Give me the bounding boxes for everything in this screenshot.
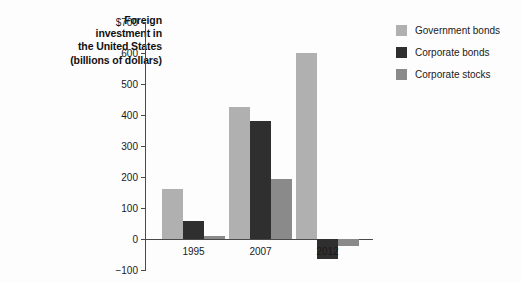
- chart-title-line-1: Foreign: [10, 14, 162, 27]
- bar-government-2012: [296, 53, 317, 239]
- x-axis-label-2012: 2012: [316, 246, 338, 257]
- bar-government-1995: [162, 189, 183, 239]
- y-axis-tick: [141, 146, 146, 147]
- y-axis-tick-label: 0: [132, 234, 138, 245]
- legend-label: Corporate bonds: [415, 47, 490, 58]
- legend-label: Government bonds: [415, 25, 500, 36]
- x-axis-label-1995: 1995: [182, 246, 204, 257]
- bar-corporate-stocks-1995: [204, 236, 225, 239]
- y-axis-tick: [141, 177, 146, 178]
- y-axis-tick: [141, 208, 146, 209]
- y-axis-tick-label: $700: [116, 17, 138, 28]
- legend-item-government[interactable]: Government bonds: [396, 25, 516, 36]
- chart-title-line-3: the United States: [10, 40, 162, 53]
- y-axis-tick-label: 500: [121, 79, 138, 90]
- legend-item-corporate-bonds[interactable]: Corporate bonds: [396, 47, 516, 58]
- bar-corporate-stocks-2012: [338, 239, 359, 246]
- y-axis-tick: [141, 270, 146, 271]
- chart-legend: Government bondsCorporate bondsCorporate…: [396, 25, 516, 91]
- chart-title-line-4: (billions of dollars): [10, 54, 162, 67]
- y-axis-tick: [141, 22, 146, 23]
- y-axis-tick-label: −100: [115, 265, 138, 276]
- bar-government-2007: [229, 107, 250, 239]
- y-axis-tick-label: 600: [121, 48, 138, 59]
- chart-title: Foreign investment in the United States …: [10, 14, 162, 67]
- legend-swatch-icon-government: [396, 25, 407, 36]
- chart-title-line-2: investment in: [10, 27, 162, 40]
- plot-area: −1000100200300400500600$700 199520072012: [145, 22, 373, 270]
- chart-figure: Foreign investment in the United States …: [0, 0, 521, 283]
- y-axis-tick-label: 300: [121, 141, 138, 152]
- legend-swatch-icon-corporate-bonds: [396, 47, 407, 58]
- legend-item-corporate-stocks[interactable]: Corporate stocks: [396, 69, 516, 80]
- bar-corporate-bonds-2007: [250, 121, 271, 239]
- bar-corporate-stocks-2007: [271, 179, 292, 239]
- y-axis-tick-label: 200: [121, 172, 138, 183]
- legend-swatch-icon-corporate-stocks: [396, 69, 407, 80]
- bar-corporate-bonds-1995: [183, 221, 204, 239]
- y-axis-tick: [141, 115, 146, 116]
- y-axis-tick-label: 400: [121, 110, 138, 121]
- y-axis-tick: [141, 239, 146, 240]
- y-axis-tick: [141, 53, 146, 54]
- legend-label: Corporate stocks: [415, 69, 491, 80]
- y-axis-tick: [141, 84, 146, 85]
- y-axis-tick-label: 100: [121, 203, 138, 214]
- x-axis-label-2007: 2007: [249, 246, 271, 257]
